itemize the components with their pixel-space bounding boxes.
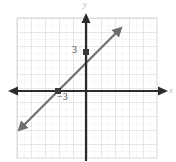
- x-axis-label: x: [169, 86, 173, 95]
- y-axis-label: y: [83, 0, 87, 9]
- x-intercept-value-label: −3: [57, 92, 68, 102]
- coordinate-plane-svg: [0, 0, 176, 162]
- coordinate-plane-figure: y x 3 −3: [0, 0, 176, 162]
- x-axis-arrow-right: [158, 87, 168, 96]
- point-y-intercept: [83, 49, 89, 55]
- x-axis-arrow-left: [8, 87, 18, 96]
- y-intercept-value-label: 3: [72, 45, 77, 55]
